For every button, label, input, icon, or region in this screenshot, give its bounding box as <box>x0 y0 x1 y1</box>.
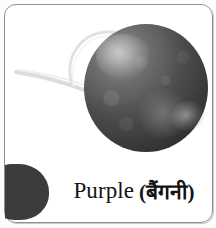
caption-row: Purple (बैंगनी) <box>6 160 211 222</box>
purple-color-swatch <box>5 164 49 220</box>
caption-hindi: (बैंगनी) <box>139 177 195 205</box>
turnip-bulb <box>84 24 208 152</box>
caption-english: Purple <box>73 178 134 204</box>
turnip-photo <box>6 6 211 161</box>
color-flashcard: Purple (बैंगनी) <box>0 0 216 228</box>
swatch-clip <box>5 164 51 220</box>
caption-label: Purple (बैंगनी) <box>58 168 210 214</box>
